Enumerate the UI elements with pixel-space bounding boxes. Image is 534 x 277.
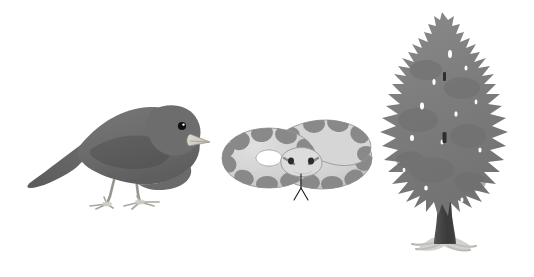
snake-eye-left [288,158,294,165]
bird-illustration [18,96,214,216]
snake-svg [214,108,380,208]
tree-foliage [380,12,508,216]
snake-head [281,148,322,177]
snake-coil-hole [256,150,282,166]
tree-svg [376,10,512,258]
bird-svg [18,96,214,216]
snake-illustration [214,108,380,208]
bird-feet [90,196,159,209]
bird-eye [178,122,186,130]
tree-illustration [376,10,512,258]
bird-eye-highlight [182,123,184,125]
snake-eye-right [308,158,314,165]
figure-canvas [0,0,534,277]
